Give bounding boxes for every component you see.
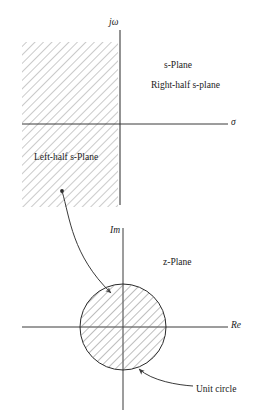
re-axis-label: Re — [231, 321, 241, 331]
right-half-s-plane-label: Right-half s-plane — [151, 81, 220, 91]
unit-circle-label: Unit circle — [196, 385, 236, 395]
z-plane-label: z-Plane — [163, 258, 192, 268]
z-plane-group — [22, 228, 228, 410]
jomega-axis-label: jω — [109, 18, 118, 28]
unit-circle-callout-arrow — [139, 369, 193, 386]
im-axis-label: Im — [110, 226, 120, 236]
left-half-s-plane-label: Left-half s-Plane — [34, 153, 98, 163]
sigma-axis-label: σ — [231, 118, 236, 128]
unit-circle — [80, 284, 166, 370]
s-plane-group — [22, 30, 228, 207]
s-plane-label: s-Plane — [164, 61, 192, 71]
s-plane-z-plane-figure — [0, 0, 259, 419]
